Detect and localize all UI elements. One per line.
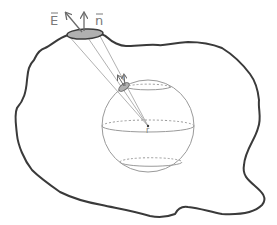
surface-patch (67, 28, 103, 40)
closed-surface-boundary (15, 31, 264, 217)
label-n: n (95, 13, 103, 28)
gauss-law-diagram: E n r r (0, 0, 277, 225)
label-r-patch: r (122, 73, 126, 82)
label-E: E (50, 13, 58, 28)
label-r-center: r (146, 126, 150, 135)
center-point (147, 125, 149, 127)
field-arrow-E (66, 13, 82, 32)
